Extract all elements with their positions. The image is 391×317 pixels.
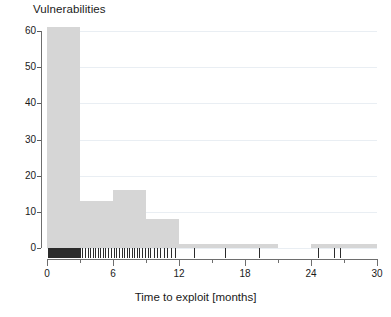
y-tick-label: 60 [14,26,36,36]
x-tick-mark [311,259,312,266]
x-axis-label: Time to exploit [months] [0,291,391,303]
y-tick-mark [37,248,41,249]
x-tick-label: 18 [230,269,260,279]
x-tick-label: 12 [164,269,194,279]
axis-ticks: 01020304050600612182430 [0,0,391,317]
y-tick-label: 10 [14,207,36,217]
y-tick-label: 0 [14,243,36,253]
x-tick-mark [113,259,114,266]
y-tick-mark [37,31,41,32]
y-tick-mark [37,103,41,104]
x-tick-mark [377,259,378,266]
x-tick-mark [47,259,48,266]
x-tick-mark-minor [212,259,213,263]
y-tick-mark [37,212,41,213]
y-tick-label: 40 [14,98,36,108]
y-tick-label: 30 [14,135,36,145]
y-tick-mark [37,67,41,68]
histogram-chart: Vulnerabilities 01020304050600612182430 … [0,0,391,317]
x-tick-mark-minor [146,259,147,263]
x-tick-mark-minor [80,259,81,263]
y-tick-mark [37,140,41,141]
x-tick-mark [245,259,246,266]
x-tick-mark [179,259,180,266]
y-tick-label: 20 [14,171,36,181]
x-tick-label: 0 [32,269,62,279]
x-tick-mark-minor [344,259,345,263]
x-tick-mark-minor [278,259,279,263]
x-tick-label: 24 [296,269,326,279]
x-tick-label: 30 [362,269,391,279]
x-tick-label: 6 [98,269,128,279]
y-tick-mark [37,176,41,177]
y-tick-label: 50 [14,62,36,72]
